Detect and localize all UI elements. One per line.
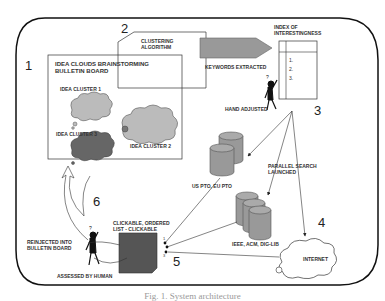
- board-title-line2: BULLETIN BOARD: [55, 68, 149, 75]
- parallel-search-label: PARALLEL SEARCH LAUNCHED: [268, 163, 317, 175]
- index-item-3: 3.: [289, 75, 293, 81]
- clickable-list-line2: LIST - CLICKABLE: [113, 226, 170, 232]
- hand-adjusted-label: HAND ADJUSTED: [225, 106, 268, 112]
- idea-cloud-2: [122, 105, 178, 144]
- reinject-arrow: [62, 166, 90, 240]
- clickable-list-box: [119, 233, 157, 273]
- index-item-1: 1.: [289, 57, 293, 63]
- literature-database-icon: [236, 192, 271, 240]
- rank-3: 3: [163, 253, 165, 259]
- assessed-by-human-label: ASSESSED BY HUMAN: [57, 273, 112, 279]
- rank-1: 1: [163, 236, 165, 242]
- patent-database-icon: [210, 132, 243, 176]
- step-2-number: 2: [121, 21, 128, 36]
- svg-text:?: ?: [266, 74, 269, 80]
- keywords-extracted-label: KEYWORDS EXTRACTED: [205, 64, 266, 70]
- idea-cloud-1: [71, 92, 112, 129]
- idea-cluster-2-label: IDEA CLUSTER 2: [130, 143, 171, 149]
- index-title-line2: INTERESTINGNESS: [274, 30, 321, 36]
- patent-database-label: US PTO, EU PTO: [192, 183, 232, 189]
- clustering-line2: ALGORITHM: [141, 44, 174, 50]
- index-table: [279, 41, 317, 99]
- reinjected-line2: BULLETIN BOARD: [27, 245, 72, 251]
- board-title: IDEA CLOUDS BRAINSTORMING BULLETIN BOARD: [55, 61, 149, 75]
- step-1-number: 1: [25, 58, 32, 73]
- hand-adjusted-figure: ?: [265, 74, 277, 110]
- keywords-arrow: [200, 38, 272, 58]
- idea-cluster-3-label: IDEA CLUSTER 3: [56, 131, 97, 137]
- idea-cluster-1-label: IDEA CLUSTER 1: [60, 86, 101, 92]
- reinjected-label: REINJECTED INTO BULLETIN BOARD: [27, 239, 72, 251]
- figure-caption: Fig. 1. System architecture: [0, 291, 385, 301]
- clickable-list-label: CLICKABLE, ORDERED LIST - CLICKABLE: [113, 220, 170, 232]
- svg-text:?: ?: [89, 225, 92, 231]
- board-title-line1: IDEA CLOUDS BRAINSTORMING: [55, 61, 149, 68]
- parallel-search-line2: LAUNCHED: [268, 169, 317, 175]
- step-5-number: 5: [173, 254, 180, 269]
- step-3-number: 3: [314, 103, 321, 118]
- step-6-number: 6: [93, 194, 100, 209]
- index-title: INDEX OF INTERESTINGNESS: [274, 24, 321, 36]
- clustering-algorithm-label: CLUSTERING ALGORITHM: [141, 38, 174, 50]
- step-4-number: 4: [318, 215, 325, 230]
- internet-label: INTERNET: [303, 256, 328, 262]
- literature-database-label: IEEE, ACM, DIG-LIB: [232, 241, 279, 247]
- index-item-2: 2.: [289, 66, 293, 72]
